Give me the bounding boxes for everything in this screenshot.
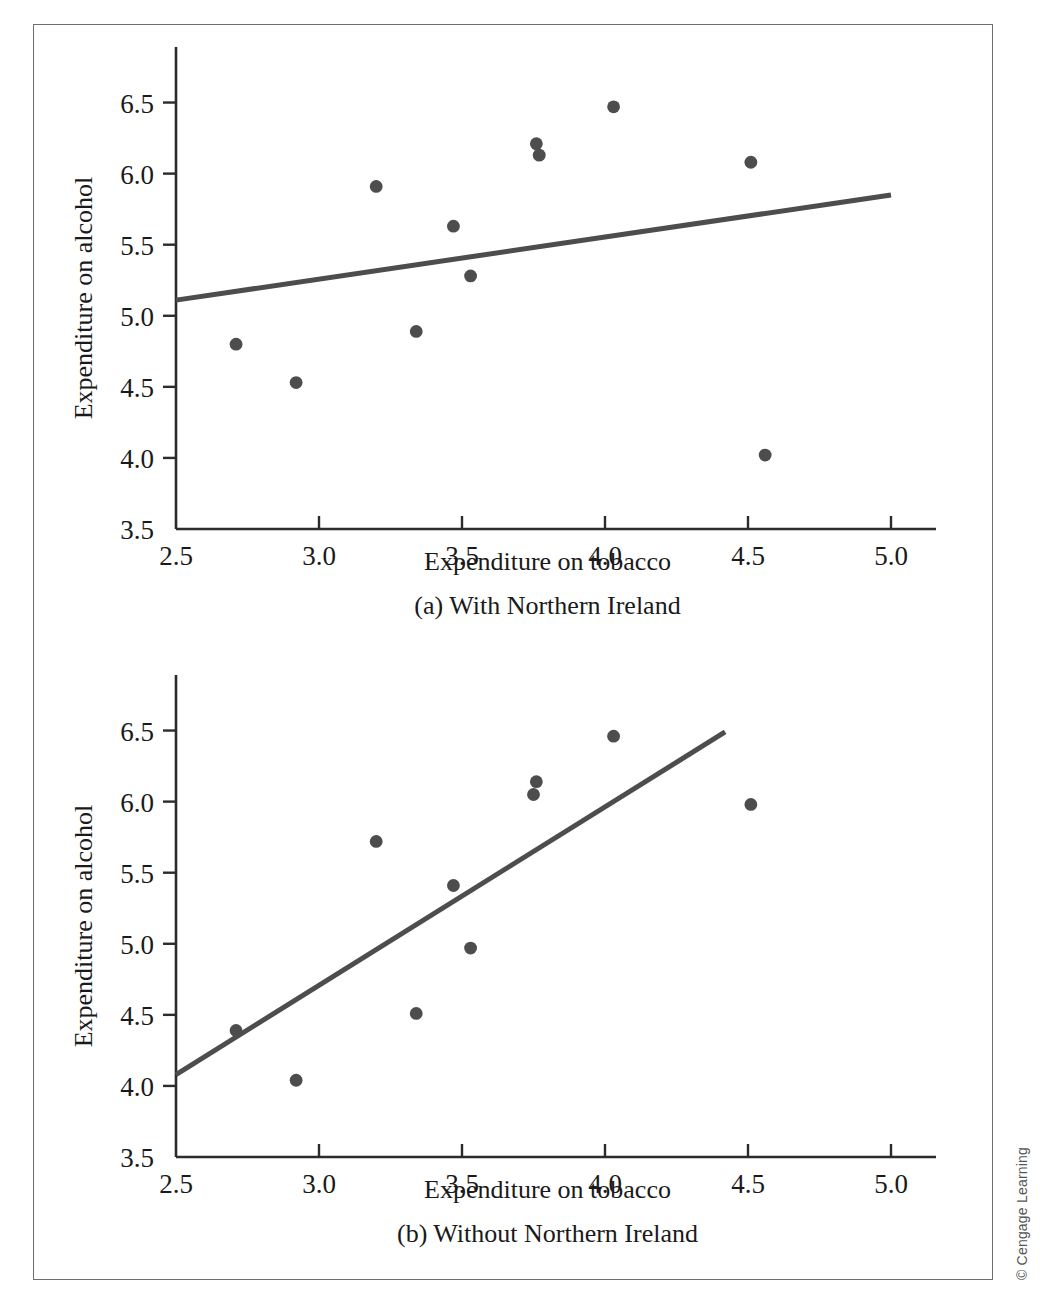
scatter-plot-b: 3.54.04.55.05.56.06.52.53.03.54.04.55.0E… — [34, 635, 994, 1281]
data-point — [607, 730, 620, 743]
y-tick-label: 4.0 — [120, 444, 154, 474]
y-tick-label: 5.0 — [120, 302, 154, 332]
data-point — [744, 798, 757, 811]
data-point — [464, 270, 477, 283]
x-tick-label: 5.0 — [874, 541, 908, 571]
y-tick-label: 6.0 — [120, 160, 154, 190]
data-point — [370, 835, 383, 848]
panel-caption: (b) Without Northern Ireland — [397, 1219, 698, 1248]
figure-root: 3.54.04.55.05.56.06.52.53.03.54.04.55.0E… — [0, 0, 1051, 1301]
y-tick-label: 4.5 — [120, 1001, 154, 1031]
figure-frame: 3.54.04.55.05.56.06.52.53.03.54.04.55.0E… — [33, 24, 993, 1280]
data-point — [759, 449, 772, 462]
y-tick-label: 3.5 — [120, 515, 154, 545]
y-tick-label: 5.5 — [120, 231, 154, 261]
regression-line — [176, 732, 725, 1075]
x-tick-label: 4.5 — [731, 541, 765, 571]
regression-line — [176, 195, 891, 300]
data-point — [607, 100, 620, 113]
x-tick-label: 2.5 — [159, 541, 193, 571]
copyright-notice: © Cengage Learning — [1014, 1090, 1030, 1280]
y-tick-label: 3.5 — [120, 1143, 154, 1173]
y-tick-label: 4.5 — [120, 373, 154, 403]
y-tick-label: 6.0 — [120, 788, 154, 818]
y-axis-label: Expenditure on alcohol — [69, 805, 98, 1048]
y-tick-label: 6.5 — [120, 717, 154, 747]
data-point — [530, 137, 543, 150]
data-point — [464, 942, 477, 955]
y-tick-label: 5.0 — [120, 930, 154, 960]
x-axis-label: Expenditure on tobacco — [424, 1175, 671, 1204]
data-point — [533, 149, 546, 162]
scatter-plot-a: 3.54.04.55.05.56.06.52.53.03.54.04.55.0E… — [34, 25, 994, 653]
y-tick-label: 4.0 — [120, 1072, 154, 1102]
data-point — [230, 1024, 243, 1037]
data-point — [527, 788, 540, 801]
x-tick-label: 4.5 — [731, 1169, 765, 1199]
data-point — [290, 376, 303, 389]
data-point — [410, 325, 423, 338]
data-point — [530, 775, 543, 788]
scatter-panel-b: 3.54.04.55.05.56.06.52.53.03.54.04.55.0E… — [34, 635, 994, 1281]
x-tick-label: 3.0 — [302, 541, 336, 571]
scatter-panel-a: 3.54.04.55.05.56.06.52.53.03.54.04.55.0E… — [34, 25, 994, 653]
data-point — [290, 1074, 303, 1087]
x-tick-label: 2.5 — [159, 1169, 193, 1199]
x-axis-label: Expenditure on tobacco — [424, 547, 671, 576]
data-point — [744, 156, 757, 169]
data-point — [410, 1007, 423, 1020]
x-tick-label: 5.0 — [874, 1169, 908, 1199]
y-axis-label: Expenditure on alcohol — [69, 177, 98, 420]
panel-caption: (a) With Northern Ireland — [414, 591, 680, 620]
data-point — [447, 879, 460, 892]
data-point — [230, 338, 243, 351]
data-point — [447, 220, 460, 233]
x-tick-label: 3.0 — [302, 1169, 336, 1199]
y-tick-label: 6.5 — [120, 89, 154, 119]
data-point — [370, 180, 383, 193]
y-tick-label: 5.5 — [120, 859, 154, 889]
